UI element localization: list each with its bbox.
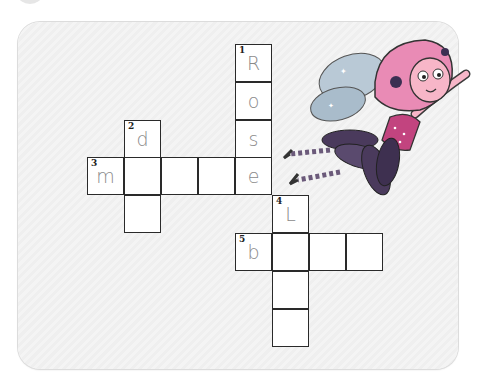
crossword-cell[interactable]: 3m [87, 157, 124, 195]
crossword-cell[interactable]: 1R [235, 44, 272, 82]
crossword-cell[interactable]: e [235, 157, 272, 195]
cell-letter: d [125, 121, 160, 157]
cell-letter: m [88, 158, 123, 194]
crossword-cell[interactable]: s [235, 120, 272, 158]
cell-letter [347, 234, 382, 270]
cell-letter [125, 196, 160, 232]
crossword-cell[interactable] [124, 195, 161, 233]
crossword-cell[interactable] [272, 233, 309, 271]
crossword-cell[interactable] [346, 233, 383, 271]
cell-letter [162, 158, 197, 194]
cell-letter: R [236, 45, 271, 81]
cell-letter [273, 234, 308, 270]
cell-letter: o [236, 83, 271, 119]
cell-letter: b [236, 234, 271, 270]
crossword-cell[interactable] [161, 157, 198, 195]
cell-letter [125, 158, 160, 194]
cell-letter: s [236, 121, 271, 157]
crossword-cell[interactable] [198, 157, 235, 195]
crossword-cell[interactable] [272, 271, 309, 309]
cell-letter [310, 234, 345, 270]
cell-letter [199, 158, 234, 194]
crossword-cell[interactable]: 5b [235, 233, 272, 271]
fairy-illustration: ✦ ✦ [280, 22, 480, 202]
crossword-cell[interactable]: o [235, 82, 272, 120]
svg-text:✦: ✦ [328, 102, 334, 110]
crossword-cell[interactable] [124, 157, 161, 195]
cell-letter [273, 272, 308, 308]
crossword-cell[interactable] [272, 309, 309, 347]
crossword-cell[interactable]: 2d [124, 120, 161, 158]
svg-text:✦: ✦ [340, 67, 347, 76]
crossword-cell[interactable] [309, 233, 346, 271]
cell-letter: e [236, 158, 271, 194]
cell-letter [273, 310, 308, 346]
